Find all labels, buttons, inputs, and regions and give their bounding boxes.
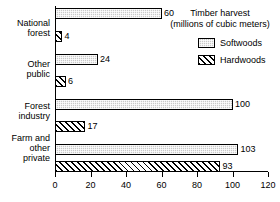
category-label-forest-industry: Forest industry	[0, 101, 50, 121]
bar-value-hardwoods-national-forest: 4	[65, 31, 70, 42]
legend-swatch-hardwoods-icon	[198, 55, 215, 65]
x-tick-120	[268, 172, 269, 177]
legend-label-hardwoods: Hardwoods	[220, 55, 266, 65]
x-tick-label-120: 120	[253, 180, 280, 190]
chart-title: Timber harvest	[160, 8, 280, 19]
bar-value-softwoods-other-public: 24	[100, 54, 110, 65]
x-tick-label-0: 0	[40, 180, 70, 190]
x-tick-label-100: 100	[218, 180, 248, 190]
bar-hardwoods-farm-other-private	[55, 161, 220, 172]
x-tick-40	[126, 172, 127, 177]
x-tick-label-60: 60	[147, 180, 177, 190]
bar-softwoods-other-public	[55, 54, 98, 65]
bar-value-hardwoods-forest-industry: 17	[88, 121, 98, 132]
legend-item-hardwoods: Hardwoods	[198, 55, 266, 65]
category-label-farm-other-private: Farm and other private	[0, 133, 50, 163]
bar-softwoods-farm-other-private	[55, 144, 238, 155]
x-tick-label-20: 20	[76, 180, 106, 190]
bar-softwoods-national-forest	[55, 8, 162, 19]
bar-hardwoods-other-public	[55, 76, 66, 87]
legend-item-softwoods: Softwoods	[198, 38, 262, 48]
x-tick-label-40: 40	[111, 180, 141, 190]
x-tick-label-80: 80	[182, 180, 212, 190]
legend-label-softwoods: Softwoods	[220, 38, 262, 48]
x-tick-60	[162, 172, 163, 177]
category-label-other-public: Other public	[0, 59, 50, 79]
x-tick-80	[197, 172, 198, 177]
bar-hardwoods-forest-industry	[55, 121, 85, 132]
bar-value-hardwoods-farm-other-private: 93	[223, 161, 233, 172]
x-tick-0	[55, 172, 56, 177]
x-tick-20	[91, 172, 92, 177]
bar-value-hardwoods-other-public: 6	[68, 76, 73, 87]
chart-title-block: Timber harvest (millions of cubic meters…	[160, 8, 280, 30]
category-label-national-forest: National forest	[0, 18, 50, 38]
bar-value-softwoods-forest-industry: 100	[235, 99, 250, 110]
chart-subtitle: (millions of cubic meters)	[160, 19, 280, 30]
x-tick-100	[233, 172, 234, 177]
timber-harvest-bar-chart: National forest Other public Forest indu…	[0, 0, 280, 202]
bar-softwoods-forest-industry	[55, 99, 233, 110]
bar-value-softwoods-farm-other-private: 103	[241, 144, 256, 155]
bar-hardwoods-national-forest	[55, 31, 62, 42]
legend-swatch-softwoods-icon	[198, 38, 215, 48]
plot-area: 60 4 24 6 100 17 103 93	[55, 6, 268, 172]
